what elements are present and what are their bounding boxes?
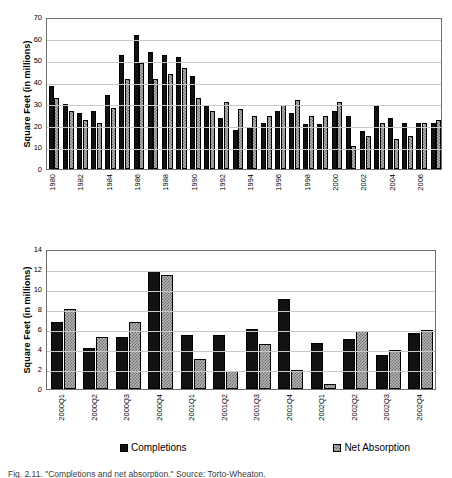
gridline: [47, 331, 435, 332]
y-tick-label: 50: [0, 57, 42, 65]
x-tick-label: 2002Q2: [351, 394, 359, 434]
bar-group: [89, 19, 103, 169]
bar-group: [330, 19, 344, 169]
bar-group: [160, 19, 174, 169]
bar-net-absorption: [226, 371, 238, 389]
y-tick-label: 0: [0, 386, 42, 394]
gridline: [47, 84, 441, 85]
bar-net-absorption: [194, 359, 206, 389]
bar-completions: [116, 337, 128, 389]
x-tick-label: 1998: [304, 174, 312, 204]
bar-group: [405, 251, 438, 389]
figure-caption: Fig. 2.11. "Completions and net absorpti…: [8, 470, 266, 478]
gridline: [47, 351, 435, 352]
x-tick-label: 1984: [106, 174, 114, 204]
x-tick-label: 2006: [417, 174, 425, 204]
x-tick-label: 2001Q4: [286, 394, 294, 434]
bar-group: [316, 19, 330, 169]
bar-completions: [416, 123, 421, 169]
bar-net-absorption: [291, 370, 303, 389]
y-tick-label: 8: [0, 306, 42, 314]
legend-swatch-net-absorption-icon: [333, 444, 341, 452]
bar-group: [302, 19, 316, 169]
bar-net-absorption: [267, 116, 272, 169]
x-tick-label: 2002Q1: [318, 394, 326, 434]
bar-completions: [148, 52, 153, 169]
bar-group: [231, 19, 245, 169]
gridline: [47, 311, 435, 312]
bar-group: [358, 19, 372, 169]
y-tick-label: 12: [0, 266, 42, 274]
bar-group: [429, 19, 443, 169]
x-tick-label: 1980: [49, 174, 57, 204]
bar-completions: [360, 131, 365, 169]
x-tick-label: 2001Q3: [253, 394, 261, 434]
bar-group: [372, 19, 386, 169]
y-tick-label: 0: [0, 166, 42, 174]
y-tick-label: 4: [0, 346, 42, 354]
x-tick-label: 1996: [275, 174, 283, 204]
bar-group: [259, 19, 273, 169]
x-tick-label: 2000Q4: [156, 394, 164, 434]
bar-group: [344, 19, 358, 169]
bar-group: [386, 19, 400, 169]
bar-completions: [204, 105, 209, 169]
bar-completions: [119, 55, 124, 169]
bar-net-absorption: [337, 102, 342, 169]
bar-group: [75, 19, 89, 169]
bar-completions: [63, 104, 68, 169]
bar-net-absorption: [139, 63, 144, 169]
bar-net-absorption: [96, 337, 108, 389]
bar-group: [273, 19, 287, 169]
bar-net-absorption: [224, 102, 229, 169]
legend-item-net-absorption: Net Absorption: [333, 443, 410, 453]
bar-group: [177, 251, 210, 389]
bar-completions: [162, 55, 167, 169]
bar-net-absorption: [394, 139, 399, 169]
bar-net-absorption: [196, 98, 201, 169]
bar-group: [145, 251, 178, 389]
bar-group: [245, 19, 259, 169]
bar-group: [275, 251, 308, 389]
gridline: [47, 127, 441, 128]
bar-group: [47, 19, 61, 169]
bar-net-absorption: [408, 136, 413, 169]
gridline: [47, 371, 435, 372]
bar-group: [340, 251, 373, 389]
bar-completions: [332, 111, 337, 169]
bar-net-absorption: [210, 111, 215, 169]
bar-completions: [402, 123, 407, 169]
bar-net-absorption: [161, 275, 173, 389]
bar-completions: [431, 123, 436, 169]
bar-completions: [181, 335, 193, 389]
bar-completions: [376, 355, 388, 389]
bar-group: [210, 251, 243, 389]
gridline: [47, 105, 441, 106]
bar-net-absorption: [238, 109, 243, 169]
bar-net-absorption: [324, 384, 336, 390]
bar-completions: [289, 113, 294, 169]
bar-net-absorption: [281, 105, 286, 169]
bar-group: [61, 19, 75, 169]
bar-net-absorption: [366, 136, 371, 169]
bar-series-quarterly: [47, 251, 435, 389]
legend-swatch-completions-icon: [120, 444, 128, 452]
bar-completions: [374, 105, 379, 169]
bar-group: [217, 19, 231, 169]
x-tick-label: 2000: [332, 174, 340, 204]
annual-bar-chart: Square Feet (in millions) 01020304050607…: [0, 0, 452, 238]
y-tick-label: 60: [0, 36, 42, 44]
bar-net-absorption: [323, 116, 328, 169]
bar-net-absorption: [252, 116, 257, 169]
bar-net-absorption: [356, 331, 368, 389]
y-tick-label: 40: [0, 79, 42, 87]
bar-net-absorption: [295, 100, 300, 169]
bar-group: [80, 251, 113, 389]
x-tick-label: 2001Q1: [188, 394, 196, 434]
bar-net-absorption: [125, 79, 130, 169]
bar-completions: [105, 95, 110, 169]
y-tick-label: 14: [0, 246, 42, 254]
bar-completions: [275, 111, 280, 169]
bar-completions: [278, 299, 290, 389]
bar-group: [372, 251, 405, 389]
